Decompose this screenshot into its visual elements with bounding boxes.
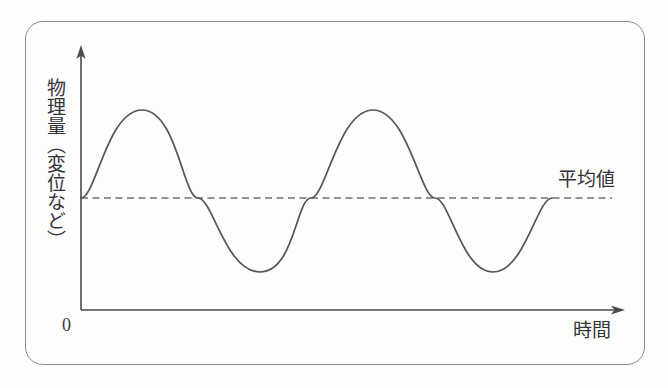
x-axis [81,305,625,314]
oscillation-curve [81,110,552,272]
origin-label: 0 [62,315,71,336]
x-axis-label: 時間 [573,315,611,342]
plot-area [0,0,668,388]
y-axis-label: 物理量（変位など） [42,78,66,249]
mean-value-label: 平均値 [558,164,615,191]
y-axis [76,45,85,310]
figure-container: 物理量（変位など） 時間 平均値 0 [0,0,668,388]
